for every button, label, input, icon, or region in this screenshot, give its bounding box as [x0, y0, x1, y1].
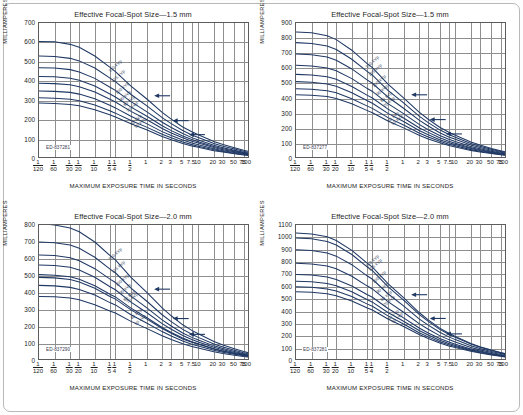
y-tick-label: 500	[24, 272, 35, 279]
x-tick-fraction: 14	[370, 159, 373, 173]
x-tick-label: 30	[219, 361, 226, 367]
plot-area: 150 kVp125 kVp100 kVp90 kVp80 kVp70 kVp6…	[38, 22, 249, 158]
x-tick-label: 3	[426, 159, 429, 165]
x-tick-label: 50	[230, 159, 237, 165]
x-tick-label: 5	[437, 361, 440, 367]
curve-90-kvp	[39, 265, 249, 356]
x-axis-ticks: 112016013012011015141212357.510203050751…	[295, 361, 506, 385]
curve-125-kvp	[296, 238, 506, 354]
ed-code: ED-837281	[45, 145, 71, 150]
x-tick-fraction: 120	[332, 361, 339, 375]
plot-frame: 150 kVp125 kVp100 kVp90 kVp80 kVp70 kVp6…	[38, 224, 249, 360]
y-tick-label: 200	[281, 332, 292, 339]
y-tick-label: 400	[281, 307, 292, 314]
y-tick-label: 100	[24, 135, 35, 142]
x-tick-fraction: 130	[66, 159, 73, 173]
x-tick-fraction: 15	[365, 361, 368, 375]
x-tick-label: 50	[487, 159, 494, 165]
x-tick-fraction: 110	[90, 361, 97, 375]
x-tick-fraction: 12	[385, 159, 388, 173]
y-tick-label: 800	[281, 34, 292, 41]
x-axis-label: MAXIMUM EXPOSURE TIME IN SECONDS	[261, 384, 519, 391]
y-tick-label: 700	[24, 238, 35, 245]
leader-arrow	[411, 93, 427, 98]
x-tick-fraction: 120	[75, 159, 82, 173]
x-axis-ticks: 112016013012011015141212357.510203050751…	[38, 159, 249, 183]
x-axis-label: MAXIMUM EXPOSURE TIME IN SECONDS	[4, 182, 262, 189]
x-tick-label: 5	[437, 159, 440, 165]
x-tick-label: 100	[241, 159, 251, 165]
leader-arrow	[411, 292, 427, 297]
curves-layer	[39, 225, 249, 360]
x-tick-label: 1	[144, 159, 147, 165]
x-tick-label: 100	[241, 361, 251, 367]
x-tick-label: 20	[467, 361, 474, 367]
y-tick-label: 700	[281, 49, 292, 56]
x-tick-fraction: 1120	[33, 159, 43, 173]
curve-90-kvp	[296, 65, 506, 154]
x-tick-label: 100	[498, 361, 508, 367]
x-axis-label: MAXIMUM EXPOSURE TIME IN SECONDS	[4, 384, 262, 391]
y-tick-label: 1000	[278, 233, 292, 240]
leader-arrow	[173, 316, 189, 321]
x-tick-label: 1	[144, 361, 147, 367]
curve-125-kvp	[296, 43, 506, 153]
x-tick-fraction: 130	[66, 361, 73, 375]
y-tick-label: 600	[281, 64, 292, 71]
x-tick-fraction: 15	[365, 159, 368, 173]
plot-area: 150 kVp125 kVp100 kVp90 kVp80 kVp70 kVp6…	[38, 224, 249, 360]
leader-arrow	[154, 93, 170, 98]
chart-title: Effective Focal-Spot Size—1.5 mm	[261, 10, 519, 19]
y-tick-label: 500	[24, 57, 35, 64]
x-tick-label: 2	[159, 361, 162, 367]
x-tick-fraction: 160	[307, 361, 314, 375]
x-tick-fraction: 160	[50, 361, 57, 375]
x-tick-fraction: 14	[370, 361, 373, 375]
y-tick-label: 600	[281, 282, 292, 289]
x-tick-label: 10	[194, 159, 201, 165]
y-tick-label: 500	[281, 79, 292, 86]
curves-layer	[296, 225, 506, 360]
x-tick-label: 2	[416, 159, 419, 165]
x-tick-fraction: 14	[113, 159, 116, 173]
x-tick-fraction: 110	[90, 159, 97, 173]
chart-panel-2: Effective Focal-Spot Size—2.0 mm MILLIAM…	[4, 206, 262, 410]
x-tick-label: 2	[159, 159, 162, 165]
plot-frame: 150 kVp125 kVp100 kVp90 kVp80 kVp70 kVp6…	[295, 224, 506, 360]
ed-code: ED-837277	[302, 145, 328, 150]
y-axis-ticks: 0100200300400500600700800	[4, 224, 37, 360]
curve-100-kvp	[39, 68, 249, 154]
y-axis-ticks: 010020030040050060070080090010001100	[261, 224, 294, 360]
x-tick-label: 50	[487, 361, 494, 367]
x-tick-fraction: 1120	[290, 159, 300, 173]
x-tick-fraction: 12	[385, 361, 388, 375]
ed-code: ED-837290	[45, 347, 71, 352]
x-tick-label: 3	[426, 361, 429, 367]
curve-100-kvp	[39, 255, 249, 355]
chart-panel-1: Effective Focal-Spot Size—1.5 mm MILLIAM…	[261, 4, 519, 208]
y-tick-label: 600	[24, 255, 35, 262]
plot-area: 150 kVp125 kVp100 kVp90 kVp80 kVp70 kVp6…	[295, 224, 506, 360]
curves-layer	[296, 23, 506, 158]
y-axis-ticks: 0100200300400500600700	[4, 22, 37, 158]
x-axis-ticks: 112016013012011015141212357.510203050751…	[38, 361, 249, 385]
curve-100-kvp	[296, 54, 506, 153]
x-tick-label: 10	[451, 361, 458, 367]
x-axis-label: MAXIMUM EXPOSURE TIME IN SECONDS	[261, 182, 519, 189]
y-tick-label: 200	[24, 323, 35, 330]
x-tick-fraction: 160	[50, 159, 57, 173]
x-tick-fraction: 1120	[290, 361, 300, 375]
x-tick-label: 30	[476, 361, 483, 367]
x-tick-fraction: 120	[332, 159, 339, 173]
x-tick-label: 20	[210, 361, 217, 367]
x-tick-fraction: 130	[323, 159, 330, 173]
x-tick-label: 20	[467, 159, 474, 165]
y-tick-label: 900	[281, 245, 292, 252]
y-tick-label: 200	[24, 116, 35, 123]
y-tick-label: 300	[281, 319, 292, 326]
y-axis-ticks: 0100200300400500600700800900	[261, 22, 294, 158]
y-tick-label: 300	[281, 109, 292, 116]
leader-arrow	[430, 316, 446, 321]
x-tick-label: 5	[180, 361, 183, 367]
x-tick-label: 10	[451, 159, 458, 165]
